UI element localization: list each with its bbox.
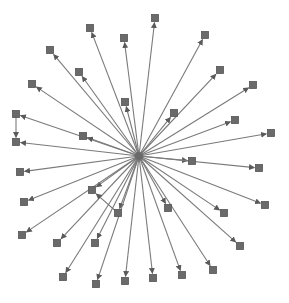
graph-node-n34[interactable]: [179, 272, 186, 279]
graph-node-n33[interactable]: [150, 275, 157, 282]
graph-node-n9[interactable]: [29, 81, 36, 88]
graph-node-n13[interactable]: [268, 130, 275, 137]
graph-node-n2[interactable]: [121, 35, 128, 42]
graph-node-n1[interactable]: [87, 25, 94, 32]
graph-node-n4[interactable]: [202, 32, 209, 39]
graph-node-n11[interactable]: [171, 110, 178, 117]
graph-node-n20[interactable]: [21, 199, 28, 206]
graph-node-n26[interactable]: [54, 240, 61, 247]
graph-node-n25[interactable]: [19, 232, 26, 239]
edge-hub-to-n18: [139, 156, 255, 168]
graph-node-n32[interactable]: [122, 278, 129, 285]
edge-hub-to-n3: [139, 23, 155, 157]
hub-node[interactable]: [135, 152, 143, 160]
graph-node-n7[interactable]: [217, 67, 224, 74]
graph-node-n6[interactable]: [76, 69, 83, 76]
graph-node-n16[interactable]: [80, 133, 87, 140]
graph-node-n19[interactable]: [17, 169, 24, 176]
graph-node-n23[interactable]: [165, 205, 172, 212]
graph-node-n35[interactable]: [210, 267, 217, 274]
edge-hub-to-n1: [92, 32, 139, 156]
graph-node-n15[interactable]: [13, 139, 20, 146]
graph-node-n17[interactable]: [189, 158, 196, 165]
edge-hub-to-n13: [139, 134, 267, 156]
graph-node-n29[interactable]: [237, 243, 244, 250]
edge-hub-to-n27: [97, 156, 139, 239]
graph-node-n18[interactable]: [256, 165, 263, 172]
graph-node-n30[interactable]: [60, 274, 67, 281]
graph-node-n22[interactable]: [115, 210, 122, 217]
edge-hub-to-n29: [139, 156, 236, 242]
graph-node-n12[interactable]: [232, 117, 239, 124]
edge-hub-to-n31: [98, 156, 140, 280]
graph-node-n28[interactable]: [221, 210, 228, 217]
graph-node-n27[interactable]: [92, 240, 99, 247]
graph-node-n10[interactable]: [122, 99, 129, 106]
network-diagram: [0, 0, 289, 303]
graph-node-n31[interactable]: [93, 281, 100, 288]
graph-node-n3[interactable]: [152, 15, 159, 22]
graph-node-n24[interactable]: [262, 202, 269, 209]
hub-layer: [135, 152, 143, 160]
edge-hub-to-n4: [139, 39, 203, 156]
graph-node-n21[interactable]: [89, 187, 96, 194]
graph-node-n8[interactable]: [250, 82, 257, 89]
graph-node-n14[interactable]: [13, 111, 20, 118]
graph-canvas: [0, 0, 289, 303]
graph-node-n5[interactable]: [47, 47, 54, 54]
